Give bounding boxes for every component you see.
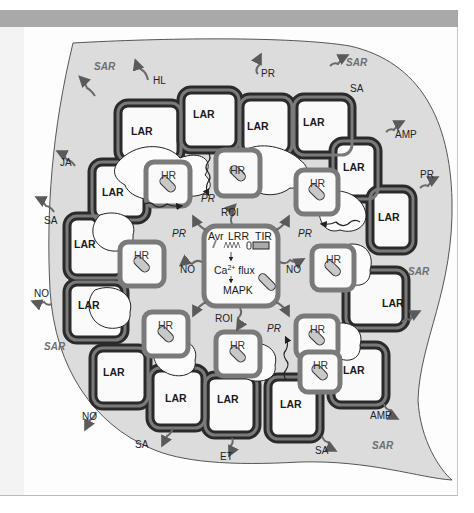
avr-label: Avr: [208, 230, 224, 242]
sar-bottom-right-label: SAR: [372, 440, 394, 451]
svg-text:LAR: LAR: [102, 186, 124, 198]
tir-label: TIR: [255, 230, 272, 242]
svg-text:HR: HR: [230, 339, 246, 351]
sar-left-label: SAR: [44, 341, 66, 352]
no-bottom-left-label: NO: [82, 411, 97, 422]
pr-outer-right-label: PR: [420, 169, 434, 180]
svg-text:LAR: LAR: [378, 211, 400, 223]
hl-label: HL: [153, 75, 166, 86]
svg-text:LAR: LAR: [74, 238, 96, 250]
roi-top-label: ROI: [221, 207, 239, 218]
tir-linker-glyph: [247, 242, 251, 249]
ja-label: JA: [60, 157, 72, 168]
sar-top-right-label: SAR: [346, 57, 368, 68]
svg-text:HR: HR: [313, 359, 329, 371]
roi-bottom-label: ROI: [215, 313, 233, 324]
sar-top-left-label: SAR: [94, 61, 116, 72]
svg-text:LAR: LAR: [193, 108, 215, 120]
pr-outer-top-label: PR: [261, 68, 275, 79]
pr-top-label: PR: [201, 193, 215, 204]
sa-top-right-label: SA: [350, 83, 364, 94]
ca-flux-label: Ca2+ flux: [214, 264, 255, 276]
svg-text:LAR: LAR: [343, 161, 365, 173]
svg-text:LAR: LAR: [382, 297, 404, 309]
tir-domain-glyph: [253, 242, 269, 249]
pr-left-label: PR: [172, 228, 186, 239]
svg-text:HR: HR: [310, 177, 326, 189]
svg-text:LAR: LAR: [280, 398, 302, 410]
pr-bottom-label: PR: [267, 323, 281, 334]
sa-bottom-right-label: SA: [315, 445, 329, 456]
svg-text:LAR: LAR: [131, 125, 153, 137]
no-outer-left-label: NO: [34, 288, 49, 299]
et-label: ET: [220, 451, 233, 462]
svg-text:HR: HR: [134, 249, 150, 261]
svg-text:LAR: LAR: [247, 120, 269, 132]
mapk-label: MAPK: [223, 284, 253, 296]
svg-text:HR: HR: [161, 169, 177, 181]
svg-text:LAR: LAR: [103, 366, 125, 378]
svg-text:HR: HR: [230, 164, 246, 176]
sa-left-label: SA: [44, 215, 58, 226]
no-left-label: NO: [180, 264, 195, 275]
svg-text:LAR: LAR: [303, 116, 325, 128]
svg-text:HR: HR: [158, 319, 174, 331]
pr-right-label: PR: [298, 228, 312, 239]
svg-text:LAR: LAR: [217, 393, 239, 405]
svg-text:HR: HR: [326, 253, 342, 265]
sar-right-label: SAR: [408, 266, 430, 277]
sa-bottom-label: SA: [135, 439, 149, 450]
svg-text:LAR: LAR: [343, 364, 365, 376]
svg-text:LAR: LAR: [78, 299, 100, 311]
plant-defense-diagram: Avr LRR TIR Ca2+ flux MAPK: [0, 0, 474, 513]
no-right-label: NO: [286, 264, 301, 275]
amp-right-label: AMP: [395, 129, 417, 140]
lrr-label: LRR: [228, 230, 249, 242]
svg-text:LAR: LAR: [165, 392, 187, 404]
svg-text:HR: HR: [310, 323, 326, 335]
amp-bottom-right-label: AMP: [370, 410, 392, 421]
